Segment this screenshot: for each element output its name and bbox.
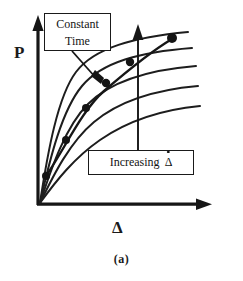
- data-point: [167, 33, 177, 43]
- increasing-rate-arrow: [133, 24, 144, 151]
- curve-rate-4: [40, 86, 198, 203]
- curve-rate-3: [40, 66, 196, 203]
- x-axis-arrowhead: [196, 198, 212, 210]
- data-point: [62, 136, 70, 144]
- y-axis-label: P: [14, 44, 24, 61]
- data-point: [42, 172, 50, 180]
- y-axis-arrowhead: [32, 15, 43, 31]
- data-point: [126, 58, 134, 66]
- rate-dot-accent-icon: [167, 151, 169, 153]
- constant-time-callout: Constant Time: [44, 13, 111, 51]
- constant-time-line-1: Constant: [45, 16, 110, 33]
- increasing-rate-callout: Increasing Δ: [88, 150, 194, 175]
- data-point: [102, 79, 110, 87]
- data-point: [82, 104, 90, 112]
- delta-dot-symbol: Δ: [165, 155, 173, 170]
- constant-time-line-2: Time: [45, 33, 110, 50]
- curve-rate-2: [40, 48, 192, 203]
- curve-rate-1: [40, 32, 188, 203]
- curve-family: [40, 32, 200, 203]
- x-axis-label: Δ: [112, 219, 123, 236]
- plot-canvas: [0, 0, 243, 281]
- figure-root: P Δ Constant Time Increasing Δ (a): [0, 0, 243, 281]
- delta-glyph: Δ: [165, 155, 173, 169]
- increasing-rate-text: Increasing: [110, 155, 160, 170]
- figure-caption: (a): [0, 252, 243, 267]
- increasing-rate-arrowhead: [133, 24, 144, 40]
